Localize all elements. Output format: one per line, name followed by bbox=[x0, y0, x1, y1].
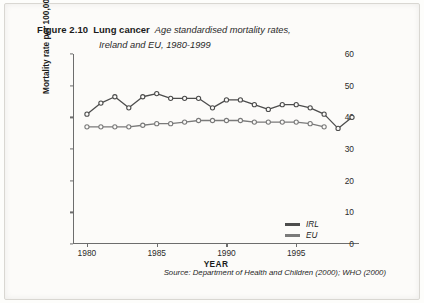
data-point bbox=[196, 118, 200, 122]
x-tick-label: 1980 bbox=[78, 248, 97, 258]
data-point bbox=[85, 125, 89, 129]
data-point bbox=[280, 103, 284, 107]
figure-card: Figure 2.10Lung cancerAge standardised m… bbox=[0, 0, 424, 303]
data-point bbox=[294, 103, 298, 107]
figure-subtitle-line2: Ireland and EU, 1980-1999 bbox=[99, 40, 211, 50]
figure-topic: Lung cancer bbox=[93, 24, 150, 35]
data-point bbox=[99, 101, 103, 105]
data-point bbox=[169, 96, 173, 100]
legend-item-irl: IRL bbox=[285, 219, 357, 230]
data-point bbox=[294, 120, 298, 124]
data-point bbox=[141, 123, 145, 127]
data-point bbox=[336, 126, 340, 130]
data-point bbox=[266, 107, 270, 111]
data-point bbox=[183, 96, 187, 100]
data-point bbox=[210, 106, 214, 110]
data-point bbox=[85, 112, 89, 116]
data-point bbox=[155, 91, 159, 95]
caption-line-1: Figure 2.10Lung cancerAge standardised m… bbox=[37, 22, 377, 37]
data-point bbox=[99, 125, 103, 129]
source-note: Source: Department of Health and Childre… bbox=[0, 268, 386, 277]
data-point bbox=[169, 122, 173, 126]
legend-label: EU bbox=[306, 231, 317, 240]
data-point bbox=[127, 125, 131, 129]
y-axis-label: Mortality rate per 100,000 bbox=[41, 0, 51, 94]
x-tick-label: 1985 bbox=[147, 248, 166, 258]
legend-swatch bbox=[285, 234, 300, 236]
x-tick-label: 1990 bbox=[217, 248, 236, 258]
data-point bbox=[266, 120, 270, 124]
series-svg bbox=[73, 54, 359, 244]
data-point bbox=[238, 98, 242, 102]
data-point bbox=[113, 95, 117, 99]
data-point bbox=[322, 112, 326, 116]
legend-label: IRL bbox=[306, 220, 319, 229]
data-point bbox=[350, 115, 354, 119]
legend: IRLEU bbox=[285, 219, 357, 241]
data-point bbox=[308, 122, 312, 126]
data-point bbox=[252, 103, 256, 107]
data-point bbox=[183, 120, 187, 124]
x-tick-label: 1995 bbox=[287, 248, 306, 258]
data-point bbox=[141, 95, 145, 99]
legend-item-eu: EU bbox=[285, 230, 357, 241]
data-point bbox=[224, 98, 228, 102]
figure-content: Figure 2.10Lung cancerAge standardised m… bbox=[0, 0, 424, 303]
data-point bbox=[238, 118, 242, 122]
data-point bbox=[252, 120, 256, 124]
figure-caption: Figure 2.10Lung cancerAge standardised m… bbox=[37, 22, 377, 51]
data-point bbox=[308, 106, 312, 110]
series-line bbox=[87, 121, 324, 127]
data-point bbox=[280, 120, 284, 124]
plot-area: 0102030405060 1980198519901995 YEAR bbox=[73, 54, 359, 244]
legend-swatch bbox=[285, 223, 300, 225]
data-point bbox=[196, 96, 200, 100]
figure-subtitle-line1: Age standardised mortality rates, bbox=[155, 25, 291, 35]
data-point bbox=[127, 106, 131, 110]
data-point bbox=[155, 122, 159, 126]
data-point bbox=[210, 118, 214, 122]
data-point bbox=[113, 125, 117, 129]
data-point bbox=[322, 125, 326, 129]
data-point bbox=[224, 118, 228, 122]
series-eu bbox=[85, 118, 326, 129]
